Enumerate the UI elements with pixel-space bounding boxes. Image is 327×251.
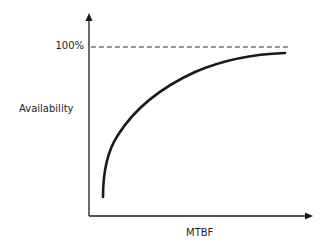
- reference-line-label: 100%: [55, 40, 84, 51]
- diagram-graphic: [0, 0, 327, 251]
- availability-mtbf-diagram: 100% Availability MTBF: [0, 0, 327, 251]
- availability-curve: [103, 53, 285, 197]
- y-axis-arrow-icon: [86, 13, 93, 21]
- y-axis-label: Availability: [19, 103, 74, 114]
- x-axis-arrow-icon: [305, 213, 313, 220]
- x-axis-label: MTBF: [186, 227, 213, 238]
